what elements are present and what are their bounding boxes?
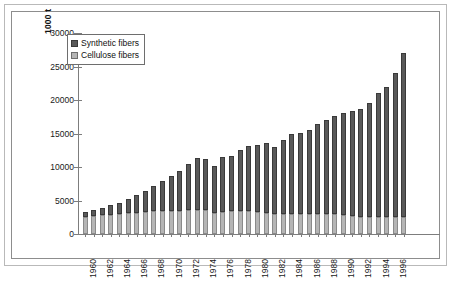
x-axis-tick: [361, 234, 362, 237]
bar-segment-synthetic: [108, 205, 113, 214]
bar-segment-synthetic: [255, 145, 260, 212]
y-axis-tick-label: 20000: [50, 96, 74, 105]
image-outer-border: 1000 t 300002500020000150001000050000 19…: [4, 4, 447, 266]
bar-segment-cellulose: [358, 217, 363, 234]
bar-segment-cellulose: [384, 217, 389, 234]
bar-segment-cellulose: [134, 213, 139, 234]
bar-1974: [203, 159, 208, 234]
x-axis-tick-label: 1966: [140, 259, 149, 278]
bar-1980: [255, 145, 260, 234]
x-axis-tick: [292, 234, 293, 237]
x-axis-tick: [119, 234, 120, 237]
bar-segment-cellulose: [324, 214, 329, 234]
x-axis-tick: [214, 234, 215, 237]
bar-segment-synthetic: [272, 147, 277, 214]
bar-segment-cellulose: [108, 215, 113, 234]
bar-1975: [212, 166, 217, 234]
x-axis-tick: [283, 234, 284, 237]
bar-segment-cellulose: [160, 211, 165, 234]
bar-1989: [332, 116, 337, 234]
bar-segment-synthetic: [203, 159, 208, 210]
x-axis-tick: [188, 234, 189, 237]
bar-1988: [324, 120, 329, 234]
x-axis-tick: [102, 234, 103, 237]
bar-segment-cellulose: [341, 215, 346, 234]
x-axis-tick: [395, 234, 396, 237]
y-axis-tick: [74, 100, 82, 101]
y-axis-tick: [74, 167, 82, 168]
bar-segment-cellulose: [246, 211, 251, 234]
bar-segment-cellulose: [203, 210, 208, 234]
cellulose-swatch-icon: [71, 52, 78, 59]
bar-1964: [117, 203, 122, 234]
bar-1971: [177, 171, 182, 234]
x-axis-tick-label: 1980: [261, 259, 270, 278]
bar-segment-synthetic: [151, 186, 156, 211]
bar-segment-cellulose: [177, 211, 182, 234]
legend-label-cellulose: Cellulose fibers: [81, 51, 139, 60]
bar-segment-cellulose: [126, 213, 131, 234]
bar-segment-synthetic: [229, 156, 234, 212]
bar-1983: [281, 140, 286, 234]
bar-1993: [367, 103, 372, 234]
bar-segment-cellulose: [298, 214, 303, 234]
bar-segment-cellulose: [393, 217, 398, 234]
bar-segment-synthetic: [212, 166, 217, 212]
x-axis-tick: [266, 234, 267, 237]
bar-1994: [376, 93, 381, 234]
x-axis-tick-label: 1984: [295, 259, 304, 278]
x-axis-tick: [369, 234, 370, 237]
bar-segment-synthetic: [195, 158, 200, 210]
x-axis-tick: [257, 234, 258, 237]
bar-segment-cellulose: [143, 212, 148, 234]
bar-1960: [83, 212, 88, 234]
bar-segment-synthetic: [264, 143, 269, 213]
x-axis-tick: [249, 234, 250, 237]
bar-1986: [307, 130, 312, 234]
x-axis-tick-label: 1994: [382, 259, 391, 278]
bar-segment-cellulose: [151, 211, 156, 234]
bar-segment-synthetic: [350, 111, 355, 216]
x-axis-tick: [163, 234, 164, 237]
x-axis-tick: [111, 234, 112, 237]
bar-1966: [134, 195, 139, 234]
bar-segment-synthetic: [307, 130, 312, 214]
bar-segment-synthetic: [393, 73, 398, 217]
legend-label-synthetic: Synthetic fibers: [81, 39, 139, 48]
bar-segment-cellulose: [83, 217, 88, 234]
legend-item-synthetic: Synthetic fibers: [71, 37, 139, 49]
y-axis-tick: [74, 234, 82, 235]
x-axis-tick-label: 1960: [89, 259, 98, 278]
synthetic-swatch-icon: [71, 40, 78, 47]
x-axis-tick: [94, 234, 95, 237]
bar-1967: [143, 191, 148, 234]
x-axis-tick: [404, 234, 405, 237]
bar-segment-cellulose: [91, 216, 96, 234]
bar-1979: [246, 146, 251, 234]
bar-segment-cellulose: [117, 214, 122, 234]
bar-segment-cellulose: [229, 211, 234, 234]
bar-segment-synthetic: [169, 176, 174, 211]
x-axis-tick-label: 1986: [313, 259, 322, 278]
bar-1985: [298, 133, 303, 234]
bar-1992: [358, 109, 363, 234]
y-axis-tick-label: 15000: [50, 129, 74, 138]
bar-1972: [186, 164, 191, 234]
bar-segment-synthetic: [315, 124, 320, 214]
x-axis-tick: [344, 234, 345, 237]
x-axis-labels: 1960196219641966196819701972197419761978…: [78, 238, 440, 282]
bar-segment-synthetic: [376, 93, 381, 216]
y-axis-tick: [74, 201, 82, 202]
x-axis-tick: [301, 234, 302, 237]
x-axis-tick: [128, 234, 129, 237]
x-axis-tick-label: 1970: [175, 259, 184, 278]
x-axis-tick-label: 1962: [106, 259, 115, 278]
x-axis-tick-label: 1976: [226, 259, 235, 278]
bar-segment-cellulose: [169, 211, 174, 234]
bar-segment-cellulose: [220, 212, 225, 234]
bar-1990: [341, 113, 346, 234]
bar-segment-synthetic: [238, 150, 243, 211]
bar-segment-cellulose: [332, 214, 337, 234]
bar-segment-synthetic: [220, 157, 225, 211]
x-axis-tick: [352, 234, 353, 237]
